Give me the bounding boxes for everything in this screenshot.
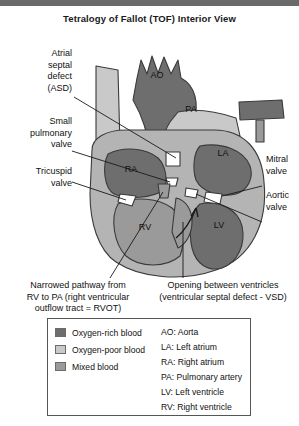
abbreviation-item: RA: Right atrium xyxy=(161,355,249,370)
abbreviation-item: LV: Left ventricle xyxy=(161,385,249,400)
swatch-oxygen-poor-icon xyxy=(55,345,66,354)
legend-item: Mixed blood xyxy=(55,359,160,374)
anatomy-label-ao: AO xyxy=(144,70,170,82)
rvot-narrowed-shape xyxy=(158,184,170,198)
anatomy-label-la: LA xyxy=(210,148,236,160)
legend-item: Oxygen-poor blood xyxy=(55,342,160,357)
label-vsd: Opening between ventricles (ventricular … xyxy=(148,280,298,303)
heart-diagram: Atrial septal defect (ASD) Small pulmona… xyxy=(0,26,299,308)
anatomy-label-lv: LV xyxy=(206,220,232,232)
abbreviation-item: PA: Pulmonary artery xyxy=(161,370,249,385)
label-atrial-septal-defect: Atrial septal defect (ASD) xyxy=(6,48,72,94)
mitral-valve-shape xyxy=(204,192,222,204)
label-tricuspid-valve: Tricuspid valve xyxy=(6,166,72,189)
left-ventricle-chamber xyxy=(190,203,243,269)
swatch-mixed-icon xyxy=(55,362,66,371)
anatomy-label-rv: RV xyxy=(132,222,158,234)
legend-box: Oxygen-rich blood Oxygen-poor blood Mixe… xyxy=(47,318,251,416)
right-pulmonary-veins-shape xyxy=(239,100,284,120)
atrial-septal-defect-gap xyxy=(166,152,180,166)
label-aortic-valve: Aortic valve xyxy=(266,190,299,213)
legend-label: Oxygen-poor blood xyxy=(72,345,145,355)
page-title: Tetralogy of Fallot (TOF) Interior View xyxy=(0,13,299,24)
label-small-pulmonary-valve: Small pulmonary valve xyxy=(6,116,72,151)
aortic-valve-shape xyxy=(185,188,198,198)
legend-label: Mixed blood xyxy=(72,362,118,372)
abbreviation-item: AO: Aorta xyxy=(161,325,249,340)
abbreviation-item: LA: Left atrium xyxy=(161,340,249,355)
top-bar xyxy=(0,0,299,6)
legend-abbreviations: AO: Aorta LA: Left atrium RA: Right atri… xyxy=(161,325,249,415)
abbreviation-item: RV: Right ventricle xyxy=(161,400,249,415)
legend-item: Oxygen-rich blood xyxy=(55,325,160,340)
swatch-oxygen-rich-icon xyxy=(55,328,66,337)
anatomy-label-ra: RA xyxy=(118,164,144,176)
right-pulmonary-vein-stem xyxy=(256,120,264,142)
legend-label: Oxygen-rich blood xyxy=(72,328,142,338)
anatomy-label-pa: PA xyxy=(178,104,204,116)
legend-blood-types: Oxygen-rich blood Oxygen-poor blood Mixe… xyxy=(55,325,160,376)
label-rvot: Narrowed pathway from RV to PA (right ve… xyxy=(4,280,152,315)
label-mitral-valve: Mitral valve xyxy=(266,154,299,177)
